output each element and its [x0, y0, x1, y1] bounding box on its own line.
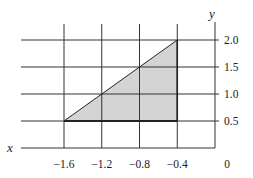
- y-tick-label: 2.0: [224, 34, 239, 46]
- y-tick-label: 1.5: [224, 61, 239, 73]
- y-tick-label: 1.0: [224, 88, 239, 100]
- y-axis-label: y: [207, 6, 215, 21]
- chart-canvas: −1.6−1.2−0.8−0.400.51.01.52.0 x y: [0, 0, 253, 178]
- x-tick-label: 0: [224, 158, 230, 170]
- x-tick-label: −1.6: [54, 158, 75, 170]
- x-tick-label: −1.2: [91, 158, 112, 170]
- y-tick-label: 0.5: [224, 115, 239, 127]
- x-axis-label: x: [6, 140, 13, 155]
- x-tick-label: −0.4: [167, 158, 188, 170]
- x-tick-label: −0.8: [129, 158, 150, 170]
